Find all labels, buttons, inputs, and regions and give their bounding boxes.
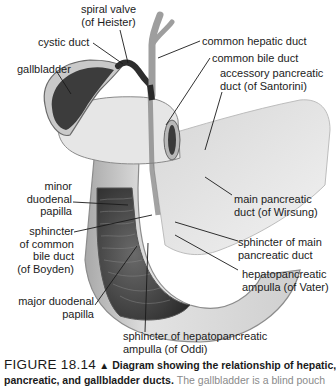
label-main-pancreatic-duct: main pancreatic duct (of Wirsung) bbox=[234, 193, 318, 218]
label-common-bile-duct: common bile duct bbox=[212, 52, 298, 65]
caption-title: Diagram showing the relationship of hepa… bbox=[112, 359, 336, 371]
common-hepatic-duct-organ bbox=[152, 15, 160, 95]
label-line: spiral valve bbox=[81, 3, 136, 16]
label-line: main pancreatic bbox=[234, 193, 318, 206]
cystic-duct-organ bbox=[118, 63, 150, 85]
label-line: duct (of Wirsung) bbox=[234, 206, 318, 219]
label-line: accessory pancreatic bbox=[220, 67, 323, 80]
label-line: minor bbox=[14, 180, 72, 193]
label-sphincter-of-common-bile-duct: sphincter of common bile duct (of Boyden… bbox=[8, 225, 74, 275]
label-hepatopancreatic-ampulla: hepatopancreatic ampulla (of Vater) bbox=[242, 268, 329, 293]
label-spiral-valve: spiral valve (of Heister) bbox=[81, 3, 136, 28]
label-line: duodenal bbox=[14, 193, 72, 206]
label-line: sphincter of main bbox=[238, 236, 322, 249]
caption-title-continued: pancreatic, and gallbladder ducts. bbox=[4, 374, 174, 386]
label-sphincter-of-hepatopancreatic-ampulla: sphincter of hepatopancreatic ampulla (o… bbox=[123, 330, 267, 355]
label-line: sphincter of hepatopancreatic bbox=[123, 330, 267, 343]
label-line: pancreatic duct bbox=[238, 249, 322, 262]
label-line: major duodenal bbox=[10, 295, 94, 308]
label-line: sphincter bbox=[8, 225, 74, 238]
label-line: (of Boyden) bbox=[8, 263, 74, 276]
label-minor-duodenal-papilla: minor duodenal papilla bbox=[14, 180, 72, 218]
label-line: hepatopancreatic bbox=[242, 268, 329, 281]
label-line: bile duct bbox=[8, 250, 74, 263]
label-line: of common bbox=[8, 238, 74, 251]
label-cystic-duct: cystic duct bbox=[38, 36, 89, 49]
label-line: papilla bbox=[14, 205, 72, 218]
label-line: ampulla (of Vater) bbox=[242, 281, 329, 294]
label-sphincter-of-main-pancreatic-duct: sphincter of main pancreatic duct bbox=[238, 236, 322, 261]
label-gallbladder: gallbladder bbox=[17, 63, 71, 76]
label-line: ampulla (of Oddi) bbox=[123, 343, 267, 356]
label-line: (of Heister) bbox=[81, 16, 136, 29]
label-line: duct (of Santorini) bbox=[220, 80, 323, 93]
label-common-hepatic-duct: common hepatic duct bbox=[202, 35, 307, 48]
triangle-marker-icon: ▲ bbox=[99, 360, 109, 371]
label-major-duodenal-papilla: major duodenal papilla bbox=[10, 295, 94, 320]
label-line: papilla bbox=[10, 308, 94, 321]
figure-number: FIGURE 18.14 bbox=[4, 357, 96, 372]
label-accessory-pancreatic-duct: accessory pancreatic duct (of Santorini) bbox=[220, 67, 323, 92]
caption-body: The gallbladder is a blind pouch bbox=[177, 374, 325, 386]
figure-caption: FIGURE 18.14 ▲ Diagram showing the relat… bbox=[4, 358, 334, 387]
caption-line-1: FIGURE 18.14 ▲ Diagram showing the relat… bbox=[4, 358, 334, 373]
caption-line-2: pancreatic, and gallbladder ducts. The g… bbox=[4, 373, 334, 387]
